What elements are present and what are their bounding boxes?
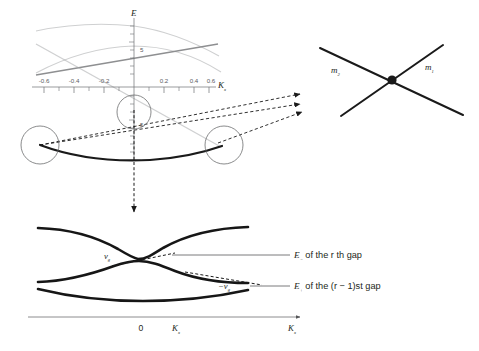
upper-band-curve <box>38 227 248 259</box>
momentum-axis-label: Kx <box>217 80 226 92</box>
lower-axis-label-end: Kx <box>287 323 296 335</box>
lower-bold-band <box>40 145 222 160</box>
m2-label: m2 <box>331 65 341 77</box>
x-tick-label-2: -0.2 <box>99 77 110 84</box>
lower-axis-label-inner: Kx <box>171 323 180 335</box>
lower-gap-dispersion-plot: vg −vg 0 Kx Kx E− of the r th gap E+ o <box>28 227 381 335</box>
x-tick-label-5: 0.6 <box>207 77 216 84</box>
y-tick-label-0: 5 <box>140 46 144 53</box>
vg-label-sub: g <box>108 257 111 262</box>
lower-axis-label-inner-sub: x <box>177 330 180 335</box>
neg-vg-label-sub: g <box>228 287 231 292</box>
annotation-e-minus: E− of the r th gap <box>293 250 362 262</box>
x-tick-label-1: -0.4 <box>69 77 80 84</box>
neg-vg-label-main: −v <box>218 281 228 291</box>
momentum-axis-label-sub: x <box>223 87 226 92</box>
dashed-arrow-middle <box>40 104 300 145</box>
vg-label: vg <box>104 251 111 262</box>
x-tick-label-4: 0.4 <box>190 77 199 84</box>
figure-root: E Kx -0.6 -0.4 -0.2 0.2 0.4 0.6 5 -5 m2 <box>0 0 479 351</box>
lower-band-curve <box>38 289 248 301</box>
x-major-ticks <box>44 87 209 93</box>
middle-band-curve <box>38 261 248 283</box>
figure-canvas: E Kx -0.6 -0.4 -0.2 0.2 0.4 0.6 5 -5 m2 <box>0 0 479 351</box>
x-tick-label-3: 0.2 <box>160 77 169 84</box>
crossing-point-dot <box>387 75 396 84</box>
lower-axis-label-end-sub: x <box>293 330 296 335</box>
m1-label: m1 <box>425 62 434 74</box>
dashed-arrow-upper <box>40 94 300 145</box>
circle-marker-right <box>205 126 243 164</box>
origin-label: 0 <box>139 323 144 333</box>
annotation-e-minus-text: of the r th gap <box>303 250 362 260</box>
band-crossing-diagram: m2 m1 <box>320 45 463 116</box>
x-tick-label-0: -0.6 <box>39 77 50 84</box>
x-minor-ticks <box>59 87 179 91</box>
upper-dispersion-plot: E Kx -0.6 -0.4 -0.2 0.2 0.4 0.6 5 -5 <box>21 8 302 212</box>
y-minor-ticks <box>129 26 134 152</box>
annotation-e-plus-text: of the (r − 1)st gap <box>303 281 381 291</box>
annotation-e-plus: E+ of the (r − 1)st gap <box>293 281 381 293</box>
m2-label-sub: 2 <box>338 72 341 77</box>
m1-label-sub: 1 <box>432 69 434 74</box>
upper-faint-band-curve <box>36 24 219 56</box>
energy-axis-label: E <box>130 8 137 18</box>
y-tick-label-1: -5 <box>138 121 144 128</box>
